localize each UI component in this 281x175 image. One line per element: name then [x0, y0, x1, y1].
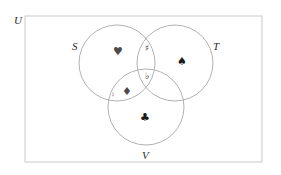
- music-flat-icon: ♭: [145, 71, 149, 81]
- club-suit-icon: ♣: [140, 111, 150, 124]
- music-sharp-icon: ♯: [145, 43, 149, 53]
- diamond-suit-icon: ♦: [122, 85, 132, 98]
- music-natural-icon: ♮: [112, 91, 115, 99]
- universal-set-rectangle: [25, 16, 262, 162]
- universal-set-label: U: [14, 14, 23, 26]
- venn-diagram-figure: U S T V ♥ ♯ ♠ ♭ ♦ ♮ ♣: [0, 0, 281, 175]
- set-label-t: T: [213, 40, 220, 52]
- spade-suit-icon: ♠: [177, 55, 187, 68]
- heart-suit-icon: ♥: [113, 45, 123, 58]
- set-label-s: S: [72, 40, 78, 52]
- venn-diagram-canvas: U S T V ♥ ♯ ♠ ♭ ♦ ♮ ♣: [0, 0, 281, 175]
